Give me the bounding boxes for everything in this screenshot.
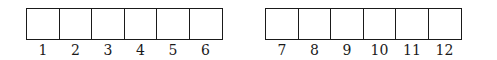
cell-label: 9 — [331, 42, 363, 58]
cell-label: 12 — [429, 42, 461, 58]
box-cell: 3 — [91, 8, 125, 40]
box-cell: 6 — [189, 8, 223, 40]
cell-label: 8 — [299, 42, 331, 58]
box-cell: 2 — [59, 8, 93, 40]
box-group-left: 1 2 3 4 5 6 — [26, 8, 223, 40]
box-cell: 7 — [265, 8, 299, 40]
box-cell: 11 — [395, 8, 429, 40]
cell-label: 1 — [27, 42, 59, 58]
box-cell: 5 — [156, 8, 190, 40]
cell-label: 4 — [125, 42, 157, 58]
cell-label: 10 — [364, 42, 396, 58]
cell-label: 11 — [396, 42, 428, 58]
cell-label: 7 — [266, 42, 298, 58]
cell-label: 3 — [92, 42, 124, 58]
box-cell: 1 — [26, 8, 60, 40]
cell-label: 5 — [157, 42, 189, 58]
box-cell: 10 — [363, 8, 397, 40]
box-group-right: 7 8 9 10 11 12 — [265, 8, 462, 40]
box-cell: 9 — [330, 8, 364, 40]
box-cell: 8 — [298, 8, 332, 40]
cell-label: 6 — [190, 42, 222, 58]
box-cell: 4 — [124, 8, 158, 40]
box-cell: 12 — [428, 8, 462, 40]
cell-label: 2 — [60, 42, 92, 58]
